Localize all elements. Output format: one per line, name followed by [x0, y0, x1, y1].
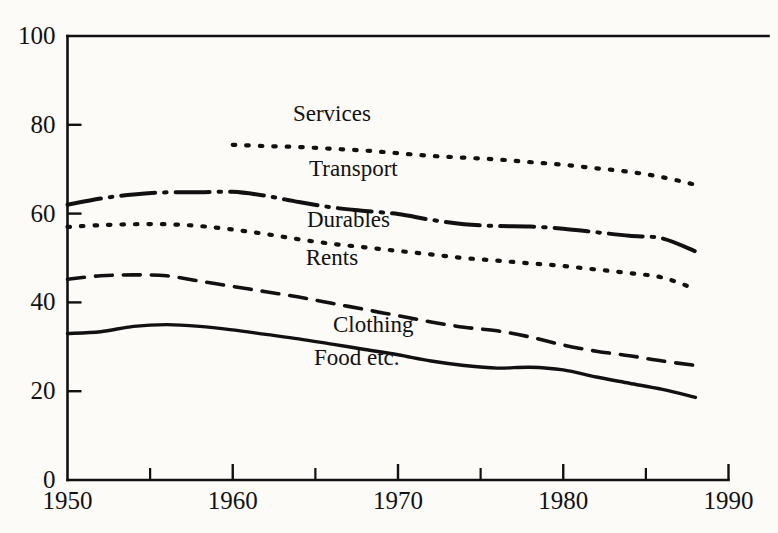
series-label-durables: Durables — [307, 208, 390, 231]
x-tick-label-1960: 1960 — [198, 488, 268, 513]
x-tick-label-1970: 1970 — [363, 488, 433, 513]
chart-plot-area — [0, 0, 778, 533]
series-label-food-etc: Food etc. — [314, 346, 400, 369]
x-tick-label-1990: 1990 — [694, 488, 764, 513]
x-tick-label-1980: 1980 — [528, 488, 598, 513]
axes-group — [68, 36, 769, 480]
series-label-services: Services — [293, 102, 371, 125]
series-label-rents: Rents — [306, 246, 358, 269]
series-label-transport: Transport — [309, 157, 398, 180]
y-tick-label-60: 60 — [31, 201, 56, 226]
x-tick-label-1950: 1950 — [33, 488, 103, 513]
y-tick-label-40: 40 — [31, 289, 56, 314]
chart-container: 020406080100 19501960197019801990 Servic… — [0, 0, 778, 533]
y-tick-label-80: 80 — [31, 112, 56, 137]
y-tick-label-100: 100 — [18, 23, 56, 48]
series-line-services — [233, 145, 696, 185]
series-label-clothing: Clothing — [333, 313, 414, 336]
y-tick-label-20: 20 — [31, 378, 56, 403]
